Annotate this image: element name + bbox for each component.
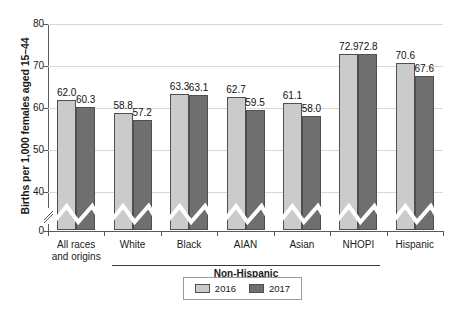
bar-value-label: 57.2	[129, 108, 155, 118]
bar-chart: Births per 1,000 females aged 15–44 80 7…	[0, 0, 459, 319]
x-tick-mark	[330, 231, 331, 236]
bar-2017-black	[189, 95, 208, 230]
gridline-80	[48, 24, 443, 25]
legend-label-2017: 2017	[269, 284, 290, 294]
bar-2017-aian	[246, 110, 265, 230]
y-tick-label-80: 80	[18, 19, 44, 29]
x-tick-mark	[217, 231, 218, 236]
bar-2017-nhopi	[358, 54, 377, 230]
legend-swatch-2017-icon	[249, 284, 264, 293]
y-tick-label-60: 60	[18, 103, 44, 113]
legend-item-2017[interactable]: 2017	[249, 284, 290, 294]
x-tick-mark	[104, 231, 105, 236]
bar-value-label: 70.6	[392, 51, 418, 61]
y-axis-title: Births per 1,000 females aged 15–44	[19, 21, 33, 231]
y-tick-label-50: 50	[18, 145, 44, 155]
bar-2017-all-races-and-origins	[76, 107, 95, 230]
legend-label-2016: 2016	[215, 284, 236, 294]
bar-2017-hispanic	[415, 76, 434, 230]
chart-legend: 2016 2017	[183, 277, 302, 300]
bar-2016-nhopi	[339, 54, 358, 230]
legend-swatch-2016-icon	[195, 284, 210, 293]
bar-2017-white	[133, 120, 152, 230]
bar-value-label: 72.8	[355, 42, 381, 52]
bar-2016-all-races-and-origins	[57, 100, 76, 230]
y-tick-label-40: 40	[18, 187, 44, 197]
y-tick-label-70: 70	[18, 61, 44, 71]
bar-value-label: 60.3	[73, 95, 99, 105]
x-tick-mark	[48, 231, 49, 236]
x-tick-mark	[443, 231, 444, 236]
x-tick-mark	[161, 231, 162, 236]
legend-item-2016[interactable]: 2016	[195, 284, 236, 294]
bar-value-label: 63.1	[186, 83, 212, 93]
bar-2016-black	[170, 94, 189, 230]
x-category-label-hispanic: Hispanic	[381, 239, 449, 251]
x-tick-mark	[387, 231, 388, 236]
bar-2016-aian	[227, 97, 246, 230]
gridline-60	[48, 108, 443, 109]
bar-value-label: 62.7	[223, 85, 249, 95]
bar-2016-white	[114, 113, 133, 230]
bar-value-label: 61.1	[279, 91, 305, 101]
gridline-70	[48, 66, 443, 67]
bar-value-label: 58.0	[298, 104, 324, 114]
non-hispanic-bracket-line	[112, 265, 380, 266]
bar-value-label: 59.5	[242, 98, 268, 108]
plot-area: 62.060.358.857.263.363.162.759.561.158.0…	[48, 24, 443, 230]
bar-2017-asian	[302, 116, 321, 230]
bar-2016-hispanic	[396, 63, 415, 230]
bar-2016-asian	[283, 103, 302, 230]
bar-value-label: 67.6	[411, 64, 437, 74]
x-tick-mark	[274, 231, 275, 236]
x-axis-line	[48, 231, 444, 232]
y-tick-label-0: 0	[18, 226, 44, 236]
